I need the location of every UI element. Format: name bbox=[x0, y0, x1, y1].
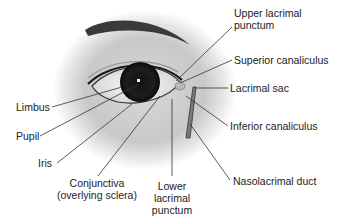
label-line: Conjunctiva bbox=[56, 177, 138, 189]
label-iris: Iris bbox=[38, 157, 52, 169]
label-limbus: Limbus bbox=[16, 101, 50, 113]
label-inferior-canaliculus: Inferior canaliculus bbox=[230, 120, 318, 132]
label-line: lacrimal bbox=[150, 192, 194, 204]
label-superior-canaliculus: Superior canaliculus bbox=[234, 54, 329, 66]
label-upper-lacrimal-punctum: Upper lacrimal punctum bbox=[234, 7, 302, 31]
label-line: Lower bbox=[150, 180, 194, 192]
label-line: punctum bbox=[234, 19, 302, 31]
label-pupil: Pupil bbox=[16, 130, 39, 142]
label-conjunctiva: Conjunctiva (overlying sclera) bbox=[56, 177, 138, 201]
label-line: (overlying sclera) bbox=[56, 189, 138, 201]
pupil-highlight bbox=[137, 79, 140, 82]
label-line: Upper lacrimal bbox=[234, 7, 302, 19]
label-nasolacrimal-duct: Nasolacrimal duct bbox=[233, 175, 316, 187]
label-line: punctum bbox=[150, 204, 194, 216]
label-lower-lacrimal-punctum: Lower lacrimal punctum bbox=[150, 180, 194, 216]
label-lacrimal-sac: Lacrimal sac bbox=[230, 82, 289, 94]
